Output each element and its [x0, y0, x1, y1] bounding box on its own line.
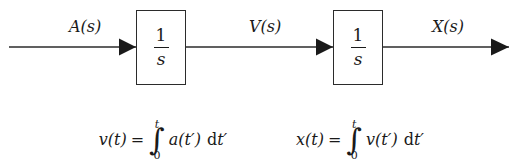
position-equation-lhs: x(t)	[296, 132, 324, 148]
velocity-integral-operator: t ∫ 0	[149, 119, 165, 161]
velocity-equation-equals-sign: =	[127, 132, 148, 148]
position-differential-d: d	[404, 130, 414, 149]
velocity-differential-variable: t′	[217, 130, 227, 149]
arrowhead-output	[491, 39, 509, 56]
transfer-function-2-fraction: 1 s	[351, 27, 366, 68]
output-signal-label: X(s)	[432, 17, 464, 36]
position-integral-lower-limit: 0	[351, 150, 358, 161]
velocity-differential-d: d	[207, 130, 217, 149]
position-integral-operator: t ∫ 0	[346, 119, 362, 161]
velocity-integral-equation: v(t) = t ∫ 0 a(t′) dt′	[99, 119, 227, 161]
integrator-block-2: 1 s	[333, 10, 383, 85]
middle-signal-label: V(s)	[249, 17, 281, 36]
integrator-block-diagram: 1 s 1 s A(s) V(s) X(s) v(t) = t ∫ 0 a(t′…	[0, 0, 518, 166]
transfer-function-1-numerator: 1	[154, 27, 169, 45]
position-differential-variable: t′	[414, 130, 424, 149]
integrator-block-1: 1 s	[136, 10, 186, 85]
transfer-function-1-fraction: 1 s	[154, 27, 169, 68]
velocity-equation-lhs: v(t)	[99, 132, 127, 148]
velocity-equation-integrand: a(t′)	[166, 132, 201, 148]
transfer-function-2-denominator: s	[352, 50, 365, 68]
position-equation-integrand: v(t′)	[363, 132, 398, 148]
arrowhead-into-block1	[119, 39, 136, 56]
transfer-function-2-numerator: 1	[351, 27, 366, 45]
arrowhead-into-block2	[316, 39, 333, 56]
transfer-function-1-denominator: s	[155, 50, 168, 68]
position-integral-equation: x(t) = t ∫ 0 v(t′) dt′	[296, 119, 424, 161]
velocity-integral-lower-limit: 0	[153, 150, 160, 161]
position-equation-differential: dt′	[398, 132, 424, 148]
velocity-equation-differential: dt′	[201, 132, 227, 148]
position-equation-equals-sign: =	[324, 132, 345, 148]
input-signal-label: A(s)	[69, 17, 101, 36]
